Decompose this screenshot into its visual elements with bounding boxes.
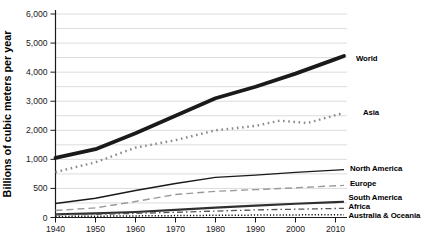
y-tick-label: 6,000: [26, 9, 48, 19]
y-tick-label: 1,000: [26, 154, 48, 164]
x-tick-label: 1950: [86, 224, 105, 234]
series-label-australia-oceania: Australia & Oceania: [349, 211, 422, 220]
y-tick-label: 500: [33, 183, 48, 193]
x-tick-label: 2010: [326, 224, 345, 234]
y-tick-label: 0: [43, 213, 48, 223]
series-line-australia-oceania: [56, 215, 345, 217]
series-line-north-america: [56, 170, 345, 204]
series-line-asia: [56, 113, 345, 172]
series-label-europe: Europe: [350, 179, 377, 188]
chart-figure: 05001,0002,0003,0004,0005,0006,000194019…: [0, 0, 429, 247]
y-tick-label: 5,000: [26, 38, 48, 48]
series-label-africa: Africa: [349, 202, 371, 211]
series-line-south-america: [56, 202, 345, 215]
series-label-asia: Asia: [363, 108, 380, 117]
series-label-world: World: [356, 54, 378, 63]
x-tick-label: 1980: [206, 224, 225, 234]
y-tick-label: 3,000: [26, 96, 48, 106]
series-line-world: [56, 56, 345, 158]
x-tick-label: 2000: [286, 224, 305, 234]
line-chart: 05001,0002,0003,0004,0005,0006,000194019…: [0, 0, 429, 247]
y-tick-label: 4,000: [26, 67, 48, 77]
x-tick-label: 1940: [46, 224, 65, 234]
x-tick-label: 1970: [166, 224, 185, 234]
x-tick-label: 1960: [126, 224, 145, 234]
y-axis-title: Billions of cubic meters per year: [1, 30, 13, 198]
series-group: [56, 56, 345, 217]
gridlines-group: [56, 14, 348, 203]
x-tick-label: 1990: [246, 224, 265, 234]
series-label-north-america: North America: [350, 164, 403, 173]
series-labels-group: WorldAsiaNorth AmericaEuropeSouth Americ…: [349, 54, 422, 220]
y-tick-label: 2,000: [26, 125, 48, 135]
